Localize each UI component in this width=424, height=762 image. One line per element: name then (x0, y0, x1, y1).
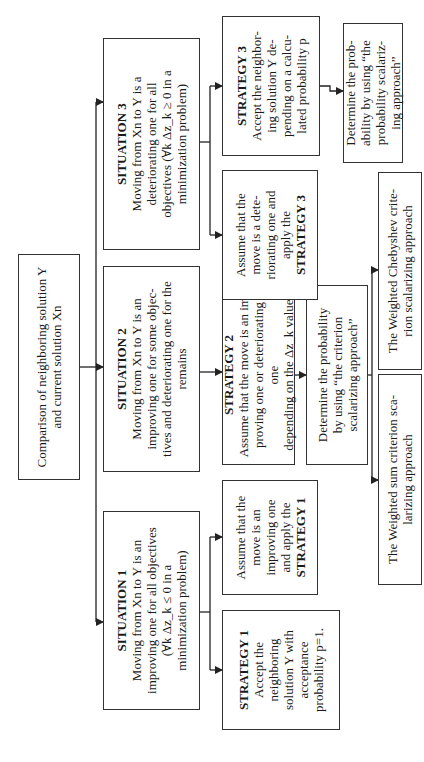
root-text: Comparison of neighboring solution Y and… (34, 260, 64, 474)
flowchart: Comparison of neighboring solution Y and… (0, 0, 424, 762)
situation-2-box: SITUATION 2 Moving from Xn to Y is an im… (103, 266, 200, 472)
strategy-2-text: Assume that the move is an im- proving o… (236, 291, 296, 459)
strategy-3-title: STRATEGY 3 (234, 46, 249, 126)
determine-probability-box: Determine the prob- ability by using “th… (343, 23, 403, 163)
strategy-3-text: Accept the neighbor- ing solution Y de- … (249, 31, 309, 140)
situation-1-box: SITUATION 1 Moving from Xn to Y is an im… (103, 511, 200, 710)
assume-improving-strategy-ref: STRATEGY 1 (293, 498, 308, 578)
strategy-1-title: STRATEGY 1 (236, 630, 251, 710)
weighted-sum-box: The Weighted sum criterion sca- larizing… (378, 374, 422, 585)
strategy-1-box: STRATEGY 1 Accept the neighboring soluti… (222, 610, 340, 730)
determine-criterion-box: Determine the probability by using “the … (306, 285, 368, 465)
situation-2-title: SITUATION 2 (114, 328, 129, 410)
situation-1-title: SITUATION 1 (114, 570, 129, 652)
assume-improving-box: Assume that the move is an improving one… (222, 480, 318, 595)
situation-3-box: SITUATION 3 Moving from Xn to Y is a det… (103, 38, 200, 250)
situation-3-text: Moving from Xn to Y is a deteriorating o… (129, 70, 189, 218)
assume-deteriorating-strategy-ref: STRATEGY 3 (293, 195, 308, 275)
situation-2-text: Moving from Xn to Y is an improving one … (129, 281, 189, 457)
root-comparison-box: Comparison of neighboring solution Y and… (18, 254, 80, 480)
weighted-sum-text: The Weighted sum criterion sca- larizing… (385, 395, 415, 564)
weighted-chebyshev-text: The Weighted Chebyshev crite- rion scala… (385, 189, 415, 353)
strategy-3-box: STRATEGY 3 Accept the neighbor- ing solu… (222, 16, 320, 156)
situation-1-text: Moving from Xn to Y is an improving one … (129, 527, 189, 694)
determine-criterion-text: Determine the probability by using “the … (315, 308, 360, 442)
determine-probability-text: Determine the prob- ability by using “th… (343, 40, 403, 146)
strategy-1-text: Accept the neighboring solution Y with a… (251, 628, 326, 712)
assume-deteriorating-text: Assume that the move is a dete- rioratin… (233, 191, 293, 280)
assume-deteriorating-box: Assume that the move is a dete- rioratin… (222, 170, 318, 300)
assume-improving-text: Assume that the move is an improving one… (233, 496, 293, 580)
situation-3-title: SITUATION 3 (114, 103, 129, 185)
weighted-chebyshev-box: The Weighted Chebyshev crite- rion scala… (378, 172, 422, 370)
strategy-2-title: STRATEGY 2 (221, 335, 236, 415)
strategy-2-box: STRATEGY 2 Assume that the move is an im… (222, 285, 295, 465)
